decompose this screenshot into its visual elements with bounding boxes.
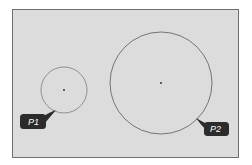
label-p2-text: P2 <box>210 124 221 134</box>
label-p1-text: P1 <box>28 117 39 127</box>
panel-background <box>13 10 239 158</box>
circle-p2-center-dot <box>160 82 162 84</box>
circles-diagram: P1 P2 <box>0 0 252 165</box>
circle-p1-center-dot <box>63 89 65 91</box>
